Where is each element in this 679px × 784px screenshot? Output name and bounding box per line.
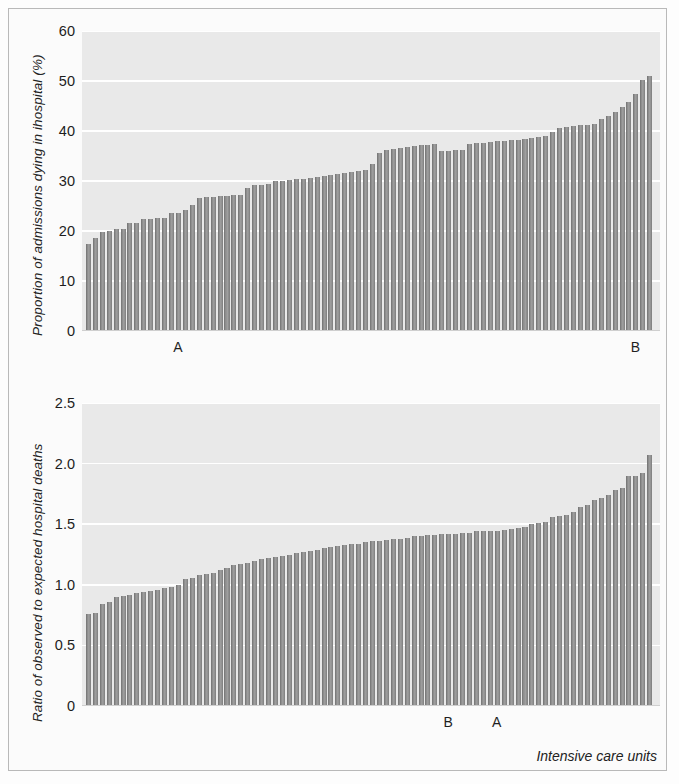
bar — [363, 542, 368, 706]
bar — [356, 171, 361, 331]
bar — [349, 172, 354, 331]
bar — [231, 195, 236, 331]
bar — [107, 231, 112, 332]
bar — [384, 150, 389, 331]
bar — [273, 181, 278, 331]
y-tick-label: 0.5 — [35, 638, 75, 653]
bar — [315, 550, 320, 706]
bar — [564, 515, 569, 706]
bar — [446, 151, 451, 332]
bar — [578, 125, 583, 331]
bar — [432, 535, 437, 706]
bar — [391, 149, 396, 331]
bar — [245, 188, 250, 331]
y-tick-label: 0 — [35, 699, 75, 714]
bar — [245, 563, 250, 706]
bar — [100, 232, 105, 332]
bar — [613, 490, 618, 706]
bar — [620, 488, 625, 706]
bar — [252, 561, 257, 706]
bar — [543, 522, 548, 706]
annotation-marker-a: A — [168, 339, 188, 355]
bar — [529, 138, 534, 331]
bar — [280, 556, 285, 706]
axis-baseline-bottom — [82, 705, 660, 706]
bar — [488, 531, 493, 706]
bar — [405, 538, 410, 706]
bar — [419, 536, 424, 706]
y-tick-label: 2.5 — [35, 396, 75, 411]
y-tick-label: 0 — [35, 324, 75, 339]
bar — [439, 151, 444, 331]
bar — [308, 551, 313, 706]
bar — [252, 185, 257, 331]
annotation-marker-b: B — [438, 714, 458, 730]
bar — [280, 181, 285, 332]
bar — [425, 535, 430, 706]
bar — [516, 528, 521, 706]
bar — [162, 218, 167, 332]
bar — [155, 590, 160, 706]
bar — [640, 80, 645, 331]
x-axis-label: Intensive care units — [536, 748, 657, 764]
bar — [342, 545, 347, 706]
bar — [474, 531, 479, 706]
bar — [266, 558, 271, 706]
bar — [211, 573, 216, 706]
bar — [626, 102, 631, 331]
bar — [335, 546, 340, 706]
y-tick-label: 2.0 — [35, 457, 75, 472]
bar — [550, 132, 555, 332]
plot-area-bottom — [82, 403, 660, 706]
bar — [412, 146, 417, 331]
bar — [446, 534, 451, 706]
bar — [453, 150, 458, 331]
bar — [176, 585, 181, 706]
axis-baseline-top — [82, 330, 660, 331]
bar — [592, 500, 597, 706]
bar — [419, 145, 424, 331]
bar — [218, 570, 223, 706]
bar — [322, 548, 327, 706]
bar — [162, 588, 167, 706]
bar — [536, 523, 541, 706]
annotation-marker-b: B — [625, 339, 645, 355]
bar — [432, 144, 437, 331]
y-tick-label: 60 — [35, 24, 75, 39]
y-axis-label-top: Proportion of admissions dying in ihospi… — [30, 54, 45, 336]
bar — [620, 107, 625, 331]
bar — [481, 143, 486, 332]
bar — [197, 575, 202, 706]
y-tick-label: 20 — [35, 224, 75, 239]
bar — [231, 565, 236, 706]
bar — [529, 524, 534, 706]
bar — [495, 531, 500, 706]
bar — [134, 223, 139, 332]
bar — [557, 516, 562, 706]
bar — [613, 112, 618, 332]
bar — [342, 173, 347, 331]
bar — [502, 141, 507, 332]
bar — [405, 147, 410, 331]
bar — [266, 184, 271, 331]
bar — [294, 179, 299, 331]
bar — [599, 498, 604, 706]
bar — [141, 219, 146, 331]
bar — [453, 534, 458, 706]
bar — [585, 125, 590, 332]
bar — [190, 205, 195, 332]
bar — [287, 180, 292, 332]
bar — [238, 195, 243, 332]
bar — [647, 76, 652, 331]
bar — [169, 213, 174, 331]
plot-area-top — [82, 31, 660, 331]
bar — [224, 568, 229, 706]
bar — [100, 604, 105, 706]
bar — [107, 602, 112, 706]
bar — [578, 507, 583, 706]
bar — [516, 140, 521, 332]
gridline — [82, 403, 660, 404]
bar — [328, 175, 333, 332]
bar — [439, 534, 444, 706]
bar — [315, 177, 320, 331]
